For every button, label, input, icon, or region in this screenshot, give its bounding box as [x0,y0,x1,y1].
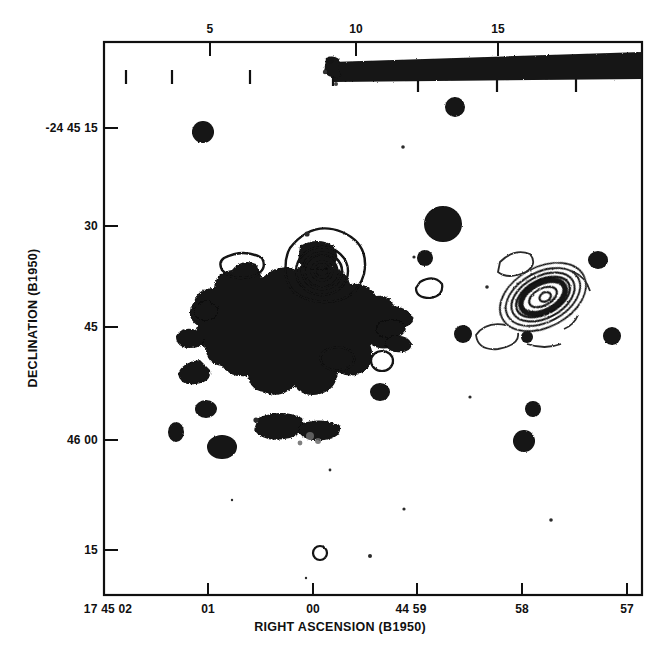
x-tick-label-5: 57 [620,602,634,616]
compact-contour-source-b [488,249,597,345]
y-tick-label-3: 46 00 [67,433,98,447]
source-b-sidelobes [476,252,590,349]
x-axis-title: RIGHT ASCENSION (B1950) [254,620,426,634]
y-axis-title: DECLINATION (B1950) [26,249,40,388]
y-tick-label-0: -24 45 15 [45,121,98,135]
x-tick-label-0: 17 45 02 [84,602,132,616]
x-axis-bottom-ticks [104,583,627,595]
x-tick-label-2: 00 [306,602,320,616]
y-axis-left-ticks [104,128,118,550]
x-axis-top-ticks [210,42,498,56]
y-tick-label-4: 15 [84,543,98,557]
x-top-tick-label-5: 5 [207,22,214,36]
x-tick-label-1: 01 [201,602,215,616]
y-tick-label-2: 45 [84,320,98,334]
y-tick-label-1: 30 [84,219,98,233]
x-top-tick-label-15: 15 [491,22,505,36]
x-top-tick-label-10: 10 [349,22,363,36]
map-content [168,52,642,579]
x-tick-label-3: 44 59 [395,602,426,616]
plot-canvas [0,0,672,650]
x-tick-label-4: 58 [515,602,529,616]
radio-contour-figure: 5 10 15 -24 45 15 30 45 46 00 15 17 45 0… [0,0,672,650]
saturated-band [323,52,642,86]
